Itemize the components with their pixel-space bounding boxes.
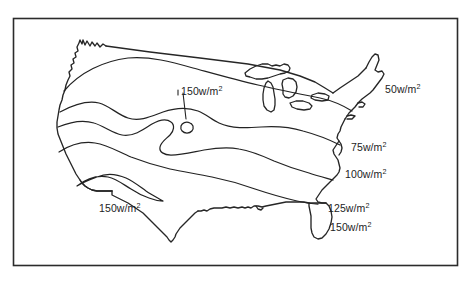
contour-label-150-central-value: 150 (181, 85, 199, 97)
contour-label-150-florida-value: 150 (330, 221, 348, 233)
contour-label-75: 75w/m2 (351, 142, 387, 153)
contour-label-75-value: 75 (351, 141, 363, 153)
chesapeake-bay-outline (339, 141, 342, 155)
contour-label-150-florida: 150w/m2 (330, 222, 371, 233)
contour-label-75-exponent: 2 (382, 140, 386, 149)
contour-label-50-value: 50 (385, 83, 397, 95)
contour-closed-central (181, 122, 193, 133)
contour-label-150-central: 150w/m2 (181, 86, 222, 97)
figure-frame (14, 19, 458, 266)
contour-label-150-florida-unit: w/m (348, 221, 368, 233)
contour-label-100-exponent: 2 (382, 167, 386, 176)
contour-label-50: 50w/m2 (385, 84, 421, 95)
contour-label-50-exponent: 2 (416, 82, 420, 91)
contour-label-50-unit: w/m (397, 83, 417, 95)
northern-border-lakes (333, 68, 366, 93)
contour-label-150-central-exponent: 2 (218, 84, 222, 93)
cape-cod-outline (358, 102, 365, 107)
contour-label-150-florida-exponent: 2 (367, 220, 371, 229)
contour-label-125-exponent: 2 (365, 201, 369, 210)
contour-label-150-southwest-unit: w/m (117, 202, 137, 214)
contour-label-100-value: 100 (345, 168, 363, 180)
northeast-coast-outline (345, 54, 384, 119)
contour-label-150-southwest: 150w/m2 (99, 203, 140, 214)
texas-gulf-coast-outline (112, 191, 198, 242)
contour-125 (59, 142, 318, 204)
contour-map-figure: 50w/m2 75w/m2 100w/m2 125w/m2 150w/m2 15… (0, 0, 472, 283)
lake-erie (290, 101, 312, 110)
contour-label-75-unit: w/m (363, 141, 383, 153)
lake-huron (282, 78, 297, 98)
contour-label-100: 100w/m2 (345, 169, 386, 180)
long-island-outline (347, 115, 355, 119)
contour-label-125-value: 125 (328, 202, 346, 214)
contour-label-100-unit: w/m (363, 168, 383, 180)
contour-label-150-central-unit: w/m (199, 85, 219, 97)
gulf-coast-outline (198, 202, 309, 211)
contour-label-125: 125w/m2 (328, 203, 369, 214)
map-drawing (0, 0, 472, 283)
atlantic-coast-outline (316, 119, 345, 203)
contour-label-125-unit: w/m (346, 202, 366, 214)
west-coast-outline (57, 40, 112, 191)
contour-label-150-southwest-value: 150 (99, 202, 117, 214)
contour-label-150-southwest-exponent: 2 (136, 201, 140, 210)
contour-150-southwest (77, 174, 163, 201)
lake-michigan (263, 81, 275, 112)
